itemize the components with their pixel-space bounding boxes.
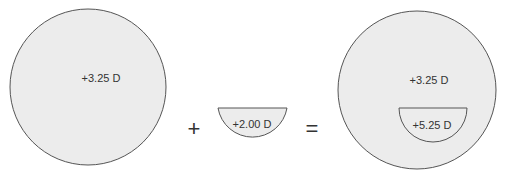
bifocal-add-diagram: +3.25 D + +2.00 D = +3.25 D +5.25 D <box>0 0 505 180</box>
segment-lens: +2.00 D <box>218 108 287 137</box>
bifocal-lens: +3.25 D +5.25 D <box>338 11 496 169</box>
bifocal-distance-power: +3.25 D <box>410 74 449 86</box>
distance-lens-power: +3.25 D <box>82 72 121 84</box>
plus-sign: + <box>188 116 201 141</box>
equals-sign: = <box>306 116 319 141</box>
segment-power: +2.00 D <box>233 118 272 130</box>
distance-lens: +3.25 D <box>10 9 166 165</box>
bifocal-segment-power: +5.25 D <box>413 119 452 131</box>
